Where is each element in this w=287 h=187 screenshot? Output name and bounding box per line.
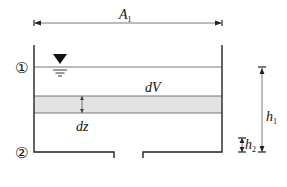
water-level-icon [53,54,67,76]
h1-dimension: h1 [258,67,277,152]
section-marker-1: ① [15,59,28,77]
section-marker-2: ② [15,144,28,162]
h1-label: h1 [266,109,277,126]
dv-label: dV [145,80,162,95]
h2-label: h2 [245,137,256,154]
width-dimension: A1 [34,7,222,26]
tank-drain-diagram: A1 dz dV h1 h2 [0,0,287,187]
h2-dimension: h2 [238,137,256,154]
width-label: A1 [118,7,132,24]
volume-slice-band [35,96,222,113]
dz-label: dz [76,119,89,134]
